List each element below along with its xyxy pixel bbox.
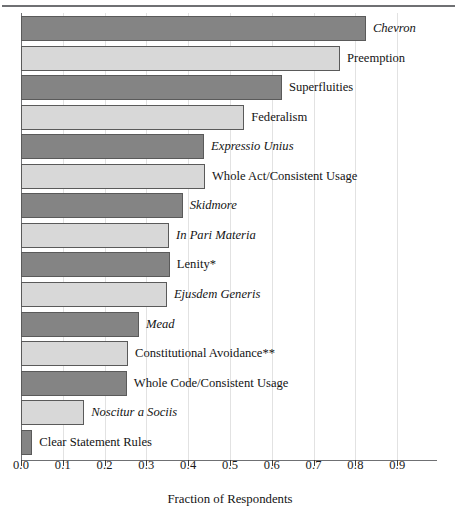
bar <box>21 105 244 130</box>
x-axis-tick-label: 0.3 <box>138 458 154 473</box>
x-axis-tick-label: 0.5 <box>222 458 238 473</box>
x-axis-title: Fraction of Respondents <box>0 492 460 507</box>
bar <box>21 341 128 366</box>
bar <box>21 282 167 307</box>
bar-label: Clear Statement Rules <box>39 430 152 455</box>
bar-label: Federalism <box>251 105 307 130</box>
bar-label: Chevron <box>373 16 416 41</box>
bar-chart-figure: ChevronPreemptionSuperfluitiesFederalism… <box>0 0 460 526</box>
bar-label: Noscitur a Sociis <box>91 400 177 425</box>
bar <box>21 193 183 218</box>
bar-label: Expressio Unius <box>211 134 293 159</box>
x-axis-tick-label: 0.6 <box>264 458 280 473</box>
gridline <box>355 13 356 460</box>
bar-label: Ejusdem Generis <box>174 282 260 307</box>
bar <box>21 400 84 425</box>
top-divider-rule <box>2 5 455 7</box>
bar <box>21 75 282 100</box>
bar <box>21 223 169 248</box>
bar-label: Mead <box>146 312 175 337</box>
bar <box>21 252 170 277</box>
bar <box>21 164 205 189</box>
bar <box>21 134 204 159</box>
bar-label: Superfluities <box>289 75 353 100</box>
x-axis-tick-label: 0.1 <box>55 458 71 473</box>
bar <box>21 46 340 71</box>
bar <box>21 312 139 337</box>
bar-label: Whole Code/Consistent Usage <box>134 371 289 396</box>
bar-label: Lenity* <box>177 252 216 277</box>
bar-label: Preemption <box>347 46 405 71</box>
bar <box>21 430 32 455</box>
bar-label: In Pari Materia <box>176 223 256 248</box>
bar-label: Whole Act/Consistent Usage <box>212 164 358 189</box>
gridline <box>397 13 398 460</box>
x-axis-tick-label: 0.9 <box>389 458 405 473</box>
x-axis-tick-label: 0.2 <box>96 458 112 473</box>
bar <box>21 16 366 41</box>
x-axis-tick-label: 0.7 <box>306 458 322 473</box>
bar-label: Skidmore <box>190 193 237 218</box>
bar <box>21 371 127 396</box>
plot-area: ChevronPreemptionSuperfluitiesFederalism… <box>21 13 437 460</box>
bar-label: Constitutional Avoidance** <box>135 341 275 366</box>
x-axis-tick-label: 0.8 <box>347 458 363 473</box>
x-axis-tick-label: 0.4 <box>180 458 196 473</box>
x-axis-tick-label: 0.0 <box>13 458 29 473</box>
